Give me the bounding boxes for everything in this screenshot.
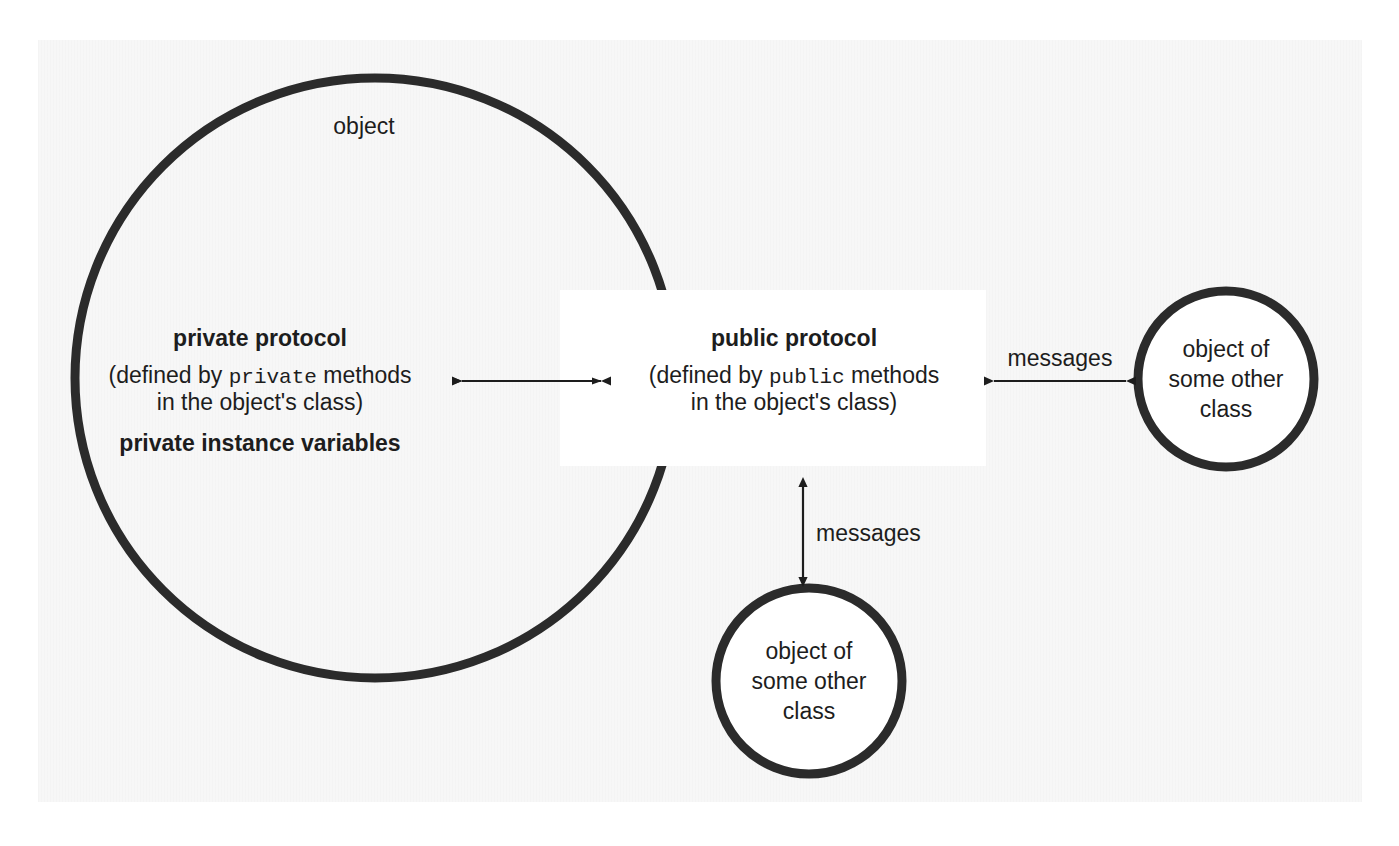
other-object-right-line1: object of bbox=[1168, 335, 1283, 365]
private-protocol-heading: private protocol bbox=[60, 325, 460, 352]
messages-label-right: messages bbox=[1008, 344, 1113, 373]
diagram-canvas: object private protocol (defined by priv… bbox=[0, 0, 1399, 846]
public-protocol-definition-line2: in the object's class) bbox=[614, 389, 974, 416]
other-object-bottom-text: object of some other class bbox=[751, 637, 866, 727]
private-protocol-definition-line2: in the object's class) bbox=[60, 389, 460, 416]
other-object-bottom-line1: object of bbox=[751, 637, 866, 667]
other-object-right-line2: some other bbox=[1168, 365, 1283, 395]
private-def-prefix: (defined by bbox=[108, 362, 228, 388]
public-def-prefix: (defined by bbox=[649, 362, 769, 388]
other-object-bottom-line2: some other bbox=[751, 667, 866, 697]
public-protocol-block: public protocol (defined by public metho… bbox=[614, 325, 974, 416]
messages-label-bottom: messages bbox=[816, 519, 921, 548]
private-instance-variables-label: private instance variables bbox=[60, 430, 460, 457]
private-protocol-block: private protocol (defined by private met… bbox=[60, 325, 460, 457]
public-protocol-heading: public protocol bbox=[614, 325, 974, 352]
private-def-suffix: methods bbox=[317, 362, 412, 388]
public-protocol-definition-line1: (defined by public methods bbox=[614, 362, 974, 389]
big-object-label: object bbox=[333, 112, 394, 141]
other-object-right-line3: class bbox=[1168, 395, 1283, 425]
other-object-right-text: object of some other class bbox=[1168, 335, 1283, 425]
public-keyword: public bbox=[769, 366, 845, 389]
private-protocol-definition-line1: (defined by private methods bbox=[60, 362, 460, 389]
private-keyword: private bbox=[229, 366, 317, 389]
public-def-suffix: methods bbox=[845, 362, 940, 388]
other-object-bottom-line3: class bbox=[751, 697, 866, 727]
